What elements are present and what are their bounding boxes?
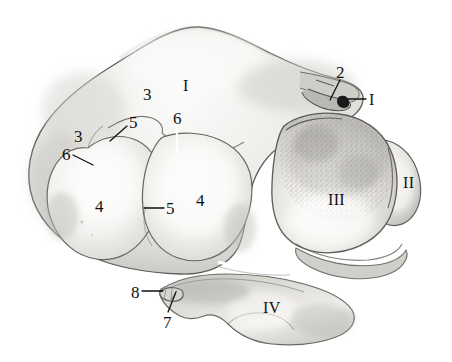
callout-label-num-7: 7 (163, 314, 172, 331)
callout-label-num-4-right: 4 (196, 192, 205, 209)
callout-label-num-5-lower: 5 (166, 200, 175, 217)
callout-label-num-5-upper: 5 (129, 114, 138, 131)
callout-label-num-6-lower: 6 (62, 146, 71, 163)
callout-label-num-6-upper: 6 (173, 110, 182, 127)
callout-label-num-I-ptr: I (369, 92, 375, 108)
callout-label-num-8: 8 (131, 284, 140, 301)
callout-label-num-3-lower: 3 (74, 128, 83, 145)
callout-label-num-3-upper: 3 (143, 86, 152, 103)
callout-label-roman-II: II (403, 175, 414, 191)
lobe-IV-shape (160, 274, 355, 345)
callout-label-roman-I: I (183, 78, 189, 94)
anatomical-figure: IIIIIIIV2I3355664487 (0, 0, 452, 362)
callout-label-num-2: 2 (336, 64, 345, 81)
bone-illustration-canvas (0, 0, 452, 362)
callout-label-num-4-left: 4 (95, 198, 104, 215)
callout-label-roman-III: III (328, 192, 345, 208)
callout-label-roman-IV: IV (263, 300, 280, 316)
